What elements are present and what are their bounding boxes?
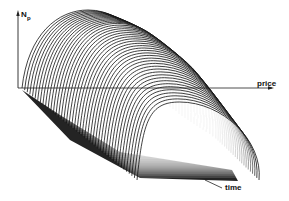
surface-mesh bbox=[22, 10, 259, 181]
time-axis-leader bbox=[205, 180, 222, 188]
surface-plot bbox=[0, 0, 289, 201]
time-axis-label: time bbox=[225, 184, 241, 192]
vertical-axis-arrow-icon bbox=[16, 10, 19, 16]
vertical-axis-label: N bbox=[21, 11, 27, 19]
price-axis-label: price bbox=[257, 80, 276, 88]
vertical-axis-label-subscript: p bbox=[27, 15, 31, 21]
